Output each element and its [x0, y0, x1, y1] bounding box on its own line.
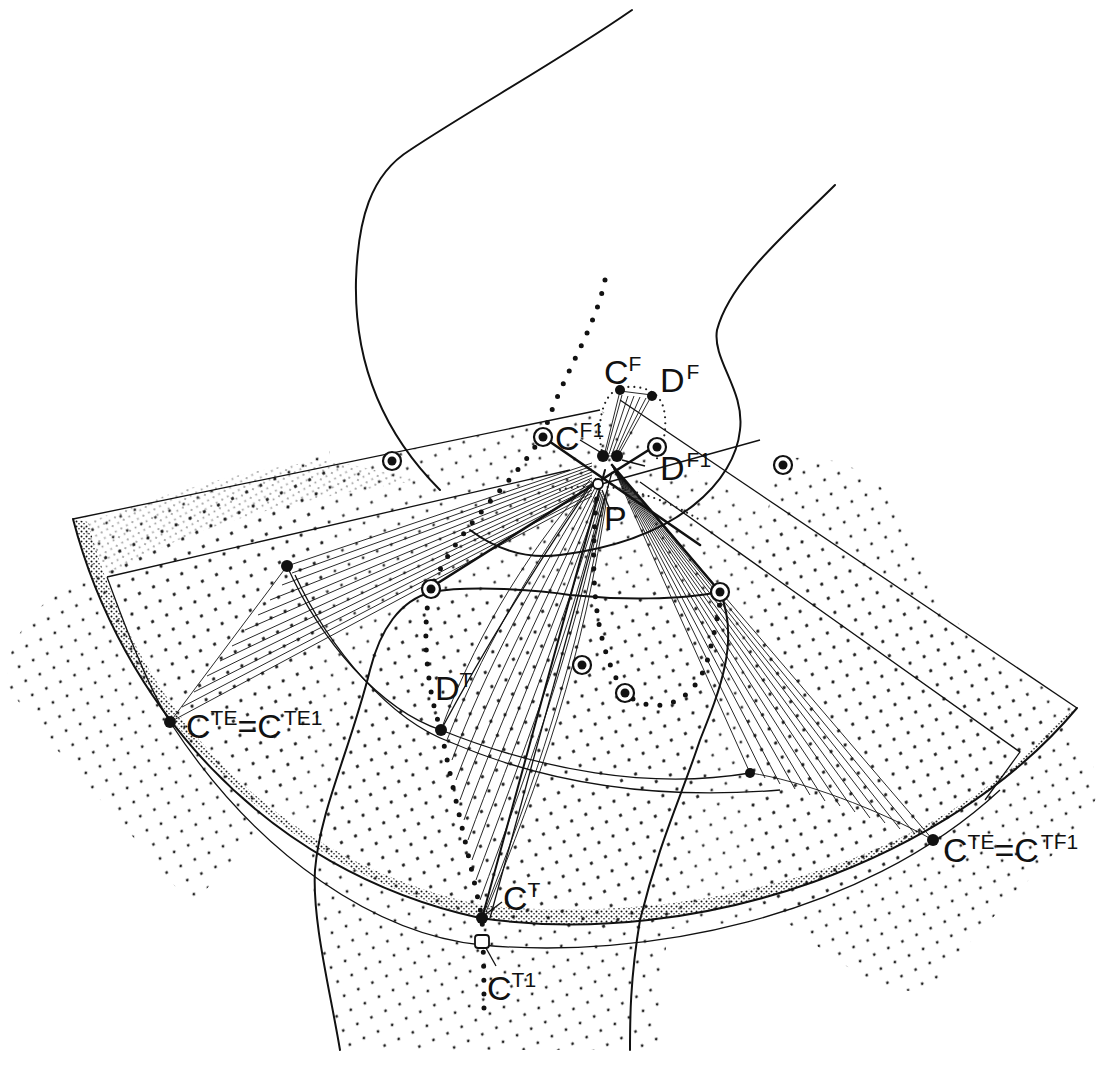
- point-CT1: [475, 935, 489, 948]
- pin-marker: [711, 583, 729, 601]
- pin-marker: [383, 452, 401, 470]
- point-DT: [435, 724, 447, 736]
- point-P: [593, 479, 603, 489]
- label-CTE-eq-CTF1: CTE=CTF1: [943, 830, 1078, 869]
- point-DF: [647, 391, 657, 401]
- label-DF: DF: [660, 360, 699, 399]
- point-DF1: [611, 450, 623, 462]
- label-P: P: [604, 499, 627, 537]
- label-CF: CF: [604, 352, 641, 391]
- point-right-apex: [745, 768, 755, 778]
- pin-marker: [774, 456, 792, 474]
- pin-marker: [422, 580, 440, 598]
- pin-marker: [534, 428, 552, 446]
- pin-marker: [616, 684, 634, 702]
- point-left-apex: [281, 560, 293, 572]
- point-CTE-right: [927, 834, 939, 846]
- knee-ligament-diagram: CF DF CF1 DF1 P DT CT CT1 CTE=CTE1 CTE=C…: [0, 0, 1110, 1072]
- pin-marker: [573, 656, 591, 674]
- point-CTE-left: [164, 716, 176, 728]
